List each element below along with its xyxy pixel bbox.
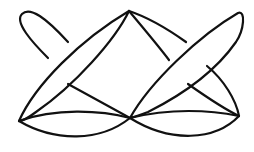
- diagram-edge: [19, 11, 129, 121]
- diagram-edge: [130, 116, 239, 136]
- diagram-edges: [19, 11, 243, 136]
- diagram-edge: [130, 13, 243, 118]
- line-drawing-diagram: [0, 0, 254, 152]
- diagram-edge: [129, 11, 186, 42]
- diagram-edge: [19, 118, 130, 136]
- diagram-edge: [20, 12, 68, 58]
